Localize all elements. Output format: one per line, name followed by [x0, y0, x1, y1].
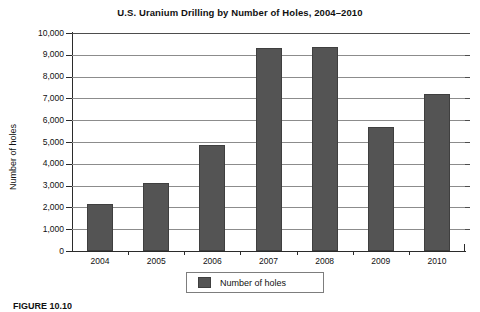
x-tick-label: 2005 [136, 256, 176, 266]
x-tick-label: 2006 [192, 256, 232, 266]
x-tick-mark [409, 251, 410, 255]
y-tick-mark [66, 55, 72, 56]
y-tick-label: 0 [59, 247, 64, 256]
y-tick-label: 4,000 [43, 159, 64, 168]
y-tick-mark [66, 251, 72, 252]
y-tick-label: 7,000 [43, 94, 64, 103]
y-tick-label: 8,000 [43, 72, 64, 81]
y-tick-label: 3,000 [43, 181, 64, 190]
y-tick-mark [66, 186, 72, 187]
x-tick-mark [297, 251, 298, 255]
bar-2010 [424, 94, 450, 251]
right-axis-stub [464, 244, 465, 252]
gridline-right-tick [465, 55, 470, 56]
gridline-right-tick [465, 120, 470, 121]
gridline-right-tick [465, 186, 470, 187]
bar-2009 [368, 127, 394, 251]
x-tick-mark [240, 251, 241, 255]
gridline-right-tick [465, 164, 470, 165]
y-tick-label: 6,000 [43, 116, 64, 125]
y-tick-label: 5,000 [43, 138, 64, 147]
y-tick-mark [66, 77, 72, 78]
y-tick-mark [66, 229, 72, 230]
legend-swatch-number-of-holes [198, 277, 211, 288]
gridline-right-tick [465, 33, 470, 34]
x-tick-label: 2004 [80, 256, 120, 266]
bar-2008 [312, 47, 338, 251]
x-tick-label: 2008 [305, 256, 345, 266]
gridline-right-tick [465, 207, 470, 208]
x-tick-mark [353, 251, 354, 255]
gridline-right-tick [465, 142, 470, 143]
y-tick-mark [66, 120, 72, 121]
chart-legend: Number of holes [186, 272, 324, 293]
y-tick-label: 9,000 [43, 50, 64, 59]
legend-label-number-of-holes: Number of holes [220, 278, 286, 288]
y-tick-mark [66, 207, 72, 208]
chart-title: U.S. Uranium Drilling by Number of Holes… [0, 7, 480, 18]
gridline-right-tick [465, 77, 470, 78]
x-axis-line [72, 251, 466, 252]
x-tick-label: 2009 [361, 256, 401, 266]
y-tick-mark [66, 98, 72, 99]
y-tick-mark [66, 142, 72, 143]
y-tick-label: 10,000 [38, 29, 64, 38]
gridline-right-tick [465, 229, 470, 230]
bar-2006 [199, 145, 225, 251]
gridline-right-tick [465, 98, 470, 99]
y-tick-mark [66, 33, 72, 34]
x-tick-mark [128, 251, 129, 255]
bar-2004 [87, 204, 113, 251]
y-axis-title: Number of holes [8, 124, 18, 190]
bar-2005 [143, 183, 169, 251]
x-tick-label: 2010 [417, 256, 457, 266]
gridline [72, 33, 465, 34]
y-tick-label: 2,000 [43, 203, 64, 212]
y-tick-mark [66, 164, 72, 165]
bar-2007 [256, 48, 282, 251]
x-tick-mark [184, 251, 185, 255]
x-tick-label: 2007 [249, 256, 289, 266]
figure-container: U.S. Uranium Drilling by Number of Holes… [0, 0, 480, 312]
figure-caption: FIGURE 10.10 [13, 301, 72, 312]
y-tick-label: 1,000 [43, 225, 64, 234]
